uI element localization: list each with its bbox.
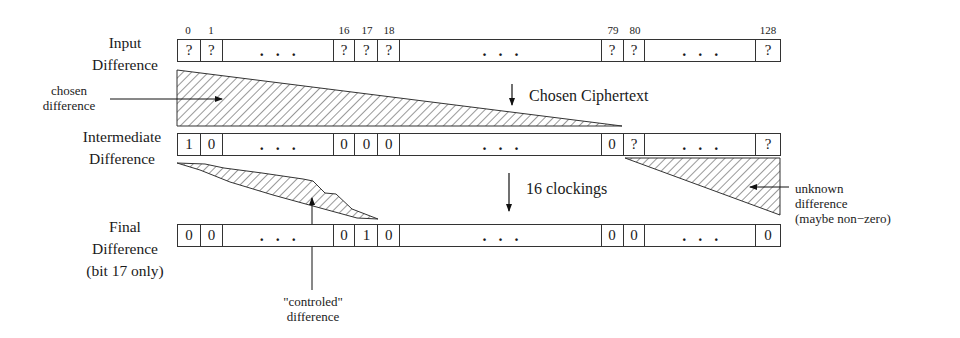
cell-bit-18: 0	[378, 225, 400, 246]
cell-bit-1: ?	[201, 40, 223, 61]
cell-bit-80: ?	[624, 40, 646, 61]
controlled-difference-annotation: "controled" difference	[274, 294, 352, 324]
cell-bit-128: ?	[756, 134, 780, 155]
cell-ellipsis: ...	[645, 40, 756, 61]
row-label-input: Input Difference	[70, 32, 180, 76]
cell-bit-1: 0	[201, 134, 223, 155]
controlled-difference-wedge	[177, 163, 378, 219]
cell-bit-17: 1	[355, 225, 378, 246]
cell-bit-80: 0	[624, 225, 646, 246]
cell-bit-0: 0	[178, 225, 201, 246]
cell-bit-79: 0	[602, 225, 624, 246]
cell-bit-80: ?	[624, 134, 646, 155]
cell-ellipsis: ...	[645, 134, 756, 155]
input-difference-register: ? ? ... ? ? ? ... ? ? ... ?	[177, 39, 781, 62]
clockings-label: 16 clockings	[526, 180, 607, 198]
bit-index-128: 128	[760, 24, 777, 36]
cell-bit-0: 1	[178, 134, 201, 155]
bit-index-0: 0	[185, 24, 191, 36]
cell-ellipsis: ...	[400, 225, 601, 246]
cell-bit-17: ?	[355, 40, 378, 61]
bit-index-80: 80	[630, 24, 641, 36]
row-label-final: Final Difference (bit 17 only)	[70, 216, 180, 282]
unknown-difference-annotation: unknown difference (maybe non−zero)	[795, 181, 891, 226]
cell-ellipsis: ...	[400, 134, 601, 155]
bit-index-17: 17	[362, 24, 373, 36]
cell-bit-18: 0	[378, 134, 400, 155]
cell-bit-16: ?	[334, 40, 356, 61]
cell-bit-79: ?	[602, 40, 624, 61]
intermediate-difference-register: 1 0 ... 0 0 0 ... 0 ? ... ?	[177, 133, 781, 156]
final-difference-register: 0 0 ... 0 1 0 ... 0 0 ... 0	[177, 224, 781, 247]
row-label-intermediate: Intermediate Difference	[64, 126, 180, 170]
bit-index-16: 16	[339, 24, 350, 36]
bit-index-18: 18	[384, 24, 395, 36]
bit-index-1: 1	[208, 24, 214, 36]
cell-ellipsis: ...	[223, 40, 334, 61]
cell-bit-1: 0	[201, 225, 223, 246]
cell-ellipsis: ...	[645, 225, 756, 246]
cell-bit-18: ?	[378, 40, 400, 61]
cell-bit-16: 0	[334, 134, 356, 155]
cell-bit-128: ?	[756, 40, 780, 61]
cell-bit-79: 0	[602, 134, 624, 155]
cell-bit-0: ?	[178, 40, 201, 61]
chosen-ciphertext-label: Chosen Ciphertext	[529, 87, 649, 105]
cell-ellipsis: ...	[400, 40, 601, 61]
chosen-difference-annotation: chosen difference	[36, 83, 102, 113]
cell-bit-16: 0	[334, 225, 356, 246]
cell-ellipsis: ...	[223, 134, 334, 155]
cell-bit-17: 0	[355, 134, 378, 155]
cell-ellipsis: ...	[223, 225, 334, 246]
cell-bit-128: 0	[756, 225, 780, 246]
bit-index-79: 79	[608, 24, 619, 36]
